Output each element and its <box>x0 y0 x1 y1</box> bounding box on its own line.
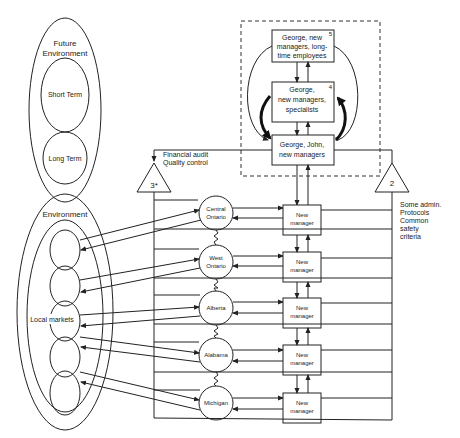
box-3-line-2: new managers <box>279 151 325 159</box>
manager-5-line-2: manager <box>290 408 314 414</box>
local-market-2 <box>50 266 80 306</box>
admin-note-line-2: Protocols <box>400 209 430 216</box>
manager-1-line-1: New <box>296 212 309 218</box>
right-triangle-group: 2 Some admin. Protocols Common safety cr… <box>375 163 441 240</box>
region-name-central-ontario-1: Central <box>206 206 225 212</box>
team-box-4: 4 George, new managers, specialists <box>272 82 334 122</box>
environment-outer-ellipse <box>17 194 113 430</box>
admin-note-line-1: Some admin. <box>400 201 441 208</box>
manager-3-line-2: manager <box>290 313 314 319</box>
box-4-line-1: George, <box>289 86 314 94</box>
triangle-2-label: 2 <box>390 179 395 188</box>
local-market-1 <box>50 230 80 270</box>
region-name-alberta: Alberta <box>206 305 226 311</box>
region-name-west-ontario-2: Ontario <box>206 263 226 269</box>
region-circle-central-ontario <box>199 196 233 230</box>
region-row-alberta: Alberta New manager <box>154 291 392 328</box>
future-environment-title-1: Future <box>53 39 77 48</box>
triangle-3-star-label: 3* <box>150 181 158 190</box>
left-triangle-group: 3* Financial audit Quality control <box>137 151 208 192</box>
manager-3-line-1: New <box>296 305 309 311</box>
box-5-line-3: time employees <box>277 52 327 60</box>
future-environment-group: Future Environment Short Term Long Term <box>29 18 101 202</box>
region-row-central-ontario: Central Ontario New manager <box>154 196 392 235</box>
box-3-line-1: George, John, <box>280 141 324 149</box>
organization-diagram: Future Environment Short Term Long Term … <box>0 0 460 438</box>
box-5-line-1: George, new <box>282 34 323 42</box>
region-name-central-ontario-2: Ontario <box>206 214 226 220</box>
manager-4-line-1: New <box>296 352 309 358</box>
manager-4-line-2: manager <box>290 360 314 366</box>
region-row-west-ontario: West Ontario New manager <box>154 245 392 282</box>
region-name-michigan: Michigan <box>204 400 228 406</box>
box-4-line-2: new managers, <box>278 96 326 104</box>
team-box-3: 3 George, John, new managers <box>272 135 339 165</box>
future-environment-title-2: Environment <box>43 49 89 58</box>
local-markets-label: Local markets <box>30 316 74 323</box>
manager-5-line-1: New <box>296 400 309 406</box>
region-circle-west-ontario <box>199 245 233 279</box>
manager-1-line-2: manager <box>290 220 314 226</box>
admin-note-line-4: safety <box>400 225 419 233</box>
region-row-michigan: Michigan New manager <box>154 386 392 423</box>
manager-2-line-1: New <box>296 259 309 265</box>
environment-title: Environment <box>43 210 89 219</box>
team-box-5: 5 George, new managers, long- time emplo… <box>272 30 334 62</box>
quality-control-label: Quality control <box>163 159 208 167</box>
financial-audit-label: Financial audit <box>163 151 208 158</box>
region-name-alabama: Alabama <box>204 352 228 358</box>
box-5-line-2: managers, long- <box>277 43 328 51</box>
region-row-alabama: Alabama New manager <box>154 338 392 375</box>
short-term-label: Short Term <box>48 91 82 98</box>
region-name-west-ontario-1: West <box>209 255 223 261</box>
box-4-line-3: specialists <box>286 106 319 114</box>
admin-note-line-3: Common <box>400 217 429 224</box>
market-region-arrows <box>80 210 201 410</box>
manager-2-line-2: manager <box>290 267 314 273</box>
environment-group: Environment Local markets <box>17 194 113 430</box>
local-market-5 <box>50 371 80 415</box>
admin-note-line-5: criteria <box>400 233 421 240</box>
long-term-label: Long Term <box>49 155 82 163</box>
